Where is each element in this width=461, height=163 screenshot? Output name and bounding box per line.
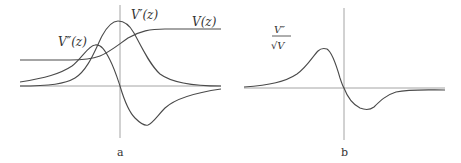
- curve-V-double-prime-over-sqrt-V: [244, 48, 445, 109]
- curve-V: [20, 29, 221, 60]
- label-V-prime: V′(z): [131, 8, 158, 22]
- label-V-double-prime: V″(z): [58, 35, 87, 49]
- panel-b: V″ √V b: [244, 8, 445, 159]
- caption-b: b: [341, 146, 348, 159]
- label-denominator: √V: [271, 40, 286, 51]
- panel-a: V′(z) V(z) V″(z) a: [20, 5, 221, 159]
- caption-a: a: [117, 146, 124, 159]
- figure: V′(z) V(z) V″(z) a V″ √V b: [0, 0, 461, 163]
- label-V: V(z): [192, 15, 217, 29]
- label-numerator: V″: [274, 24, 285, 35]
